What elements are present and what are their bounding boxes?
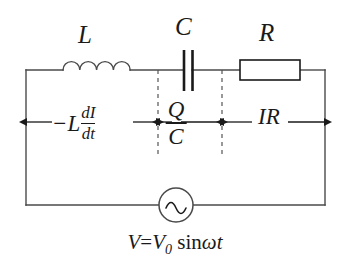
resistor-voltage-label: IR	[258, 105, 280, 128]
inductor-voltage-numerator: dI	[81, 104, 95, 122]
source-eq-v0-subscript: 0	[165, 242, 172, 257]
capacitor-label: C	[175, 14, 192, 39]
inductor-label: L	[78, 22, 92, 47]
inductor-voltage-denominator: dt	[82, 125, 95, 143]
inductor-coil-path	[63, 62, 130, 70]
inductor-voltage-lead: −L	[52, 112, 80, 135]
source-eq-omega: ω	[202, 230, 217, 254]
capacitor-voltage-denominator: C	[166, 125, 185, 148]
source-equation-label: V=V0 sinωt	[128, 232, 223, 257]
source-eq-sin: sin	[177, 230, 202, 254]
source-eq-v0: V	[152, 230, 165, 254]
ac-source-icon	[159, 188, 193, 222]
circuit-diagram: L C R −L dI dt Q C IR V=V0 sinωt	[0, 0, 350, 268]
source-eq-t: t	[217, 230, 223, 254]
capacitor-plates-icon	[184, 50, 193, 91]
capacitor-voltage-label: Q C	[166, 98, 187, 148]
inductor-voltage-label: −L dI dt	[52, 104, 95, 143]
inductor-voltage-fraction: dI dt	[81, 104, 95, 143]
source-eq-equals: =	[140, 230, 152, 254]
source-eq-v: V	[128, 230, 141, 254]
capacitor-voltage-numerator: Q	[166, 98, 187, 121]
resistor-label: R	[259, 20, 274, 45]
resistor-box-icon	[240, 60, 300, 80]
